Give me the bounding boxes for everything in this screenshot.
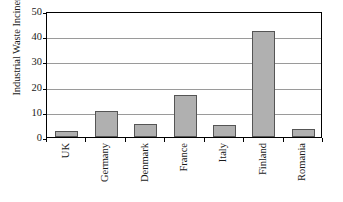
- x-tick-mark: [322, 138, 323, 142]
- x-label-slot: Romania: [295, 143, 309, 201]
- x-axis-label: Romania: [296, 143, 308, 181]
- x-tick-mark: [243, 138, 244, 142]
- x-label-slot: Germany: [98, 143, 112, 201]
- bars-group: [47, 13, 321, 137]
- x-label-slot: UK: [59, 143, 73, 201]
- bar-germany: [95, 111, 118, 137]
- x-label-slot: Finland: [256, 143, 270, 201]
- x-label-slot: Denmark: [138, 143, 152, 201]
- x-axis-label: Germany: [99, 143, 111, 182]
- x-axis-label: Denmark: [139, 143, 151, 182]
- bar-italy: [213, 125, 236, 137]
- y-axis-tick-labels: 01020304050: [18, 12, 42, 138]
- y-tick-label: 50: [18, 7, 42, 17]
- y-tick-label: 10: [18, 108, 42, 118]
- x-tick-mark: [125, 138, 126, 142]
- y-tick-label: 0: [18, 133, 42, 143]
- y-tick-label: 40: [18, 32, 42, 42]
- bar-uk: [55, 131, 78, 137]
- x-axis-category-labels: UKGermanyDenmarkFranceItalyFinlandRomani…: [46, 143, 322, 202]
- x-axis-label: UK: [60, 143, 72, 158]
- x-axis-label: Finland: [257, 143, 269, 175]
- x-tick-mark: [283, 138, 284, 142]
- bar-denmark: [134, 124, 157, 137]
- x-tick-mark: [46, 138, 47, 142]
- y-tick-mark: [43, 89, 47, 90]
- x-tick-mark: [204, 138, 205, 142]
- x-tick-mark: [85, 138, 86, 142]
- plot-area: [46, 12, 322, 138]
- bar-france: [174, 95, 197, 137]
- x-tick-mark: [164, 138, 165, 142]
- bar-romania: [292, 129, 315, 137]
- y-tick-mark: [43, 63, 47, 64]
- x-axis-label: Italy: [217, 143, 229, 162]
- bar-finland: [252, 31, 275, 137]
- y-tick-mark: [43, 114, 47, 115]
- y-tick-label: 30: [18, 57, 42, 67]
- x-axis-label: France: [178, 143, 190, 172]
- y-tick-label: 20: [18, 83, 42, 93]
- y-tick-mark: [43, 13, 47, 14]
- x-label-slot: Italy: [216, 143, 230, 201]
- x-label-slot: France: [177, 143, 191, 201]
- bar-chart: Industrial Waste Incinerated (%) 0102030…: [0, 0, 343, 202]
- y-tick-mark: [43, 38, 47, 39]
